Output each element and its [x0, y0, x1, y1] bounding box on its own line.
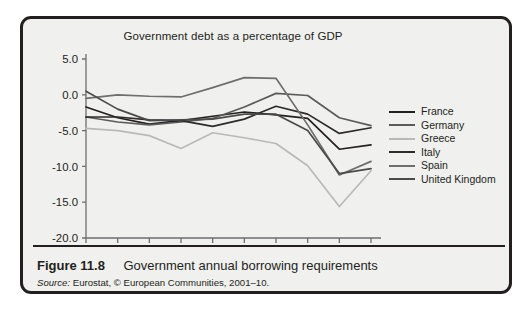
caption-divider — [33, 245, 505, 247]
legend-line-swatch — [389, 138, 415, 140]
source-note: Source: Eurostat, © European Communities… — [37, 277, 269, 288]
caption: Figure 11.8 Government annual borrowing … — [37, 256, 378, 274]
y-tick-label: 5.0 — [62, 53, 78, 65]
legend-item[interactable]: United Kingdom — [389, 173, 512, 187]
legend-item[interactable]: France — [389, 105, 512, 119]
figure-panel: Government debt as a percentage of GDP 5… — [20, 16, 512, 294]
legend-label: Greece — [421, 132, 455, 146]
source-text: Eurostat, © European Communities, 2001–1… — [70, 277, 269, 288]
figure-caption-text: Government annual borrowing requirements — [123, 258, 377, 273]
legend-line-swatch — [389, 124, 415, 126]
legend-item[interactable]: Germany — [389, 119, 512, 133]
legend-line-swatch — [389, 165, 415, 167]
chart-region: Government debt as a percentage of GDP 5… — [23, 19, 512, 245]
y-tick-label: -15.0 — [52, 196, 78, 208]
legend-label: United Kingdom — [421, 173, 496, 187]
series-line-greece — [86, 128, 371, 206]
legend-label: Italy — [421, 146, 440, 160]
chart-legend: FranceGermanyGreeceItalySpainUnited King… — [389, 105, 512, 186]
caption-block: Figure 11.8 Government annual borrowing … — [23, 245, 512, 294]
legend-item[interactable]: Spain — [389, 159, 512, 173]
legend-line-swatch — [389, 178, 415, 180]
figure-number: Figure 11.8 — [37, 258, 105, 273]
y-tick-label: -5.0 — [58, 125, 78, 137]
legend-item[interactable]: Italy — [389, 146, 512, 160]
y-tick-label: -20.0 — [52, 232, 78, 244]
source-label: Source: — [37, 277, 70, 288]
legend-line-swatch — [389, 111, 415, 113]
legend-label: Germany — [421, 119, 464, 133]
y-tick-label: 0.0 — [62, 89, 78, 101]
legend-item[interactable]: Greece — [389, 132, 512, 146]
legend-label: France — [421, 105, 454, 119]
y-tick-label: -10.0 — [52, 161, 78, 173]
legend-line-swatch — [389, 151, 415, 153]
legend-label: Spain — [421, 159, 448, 173]
